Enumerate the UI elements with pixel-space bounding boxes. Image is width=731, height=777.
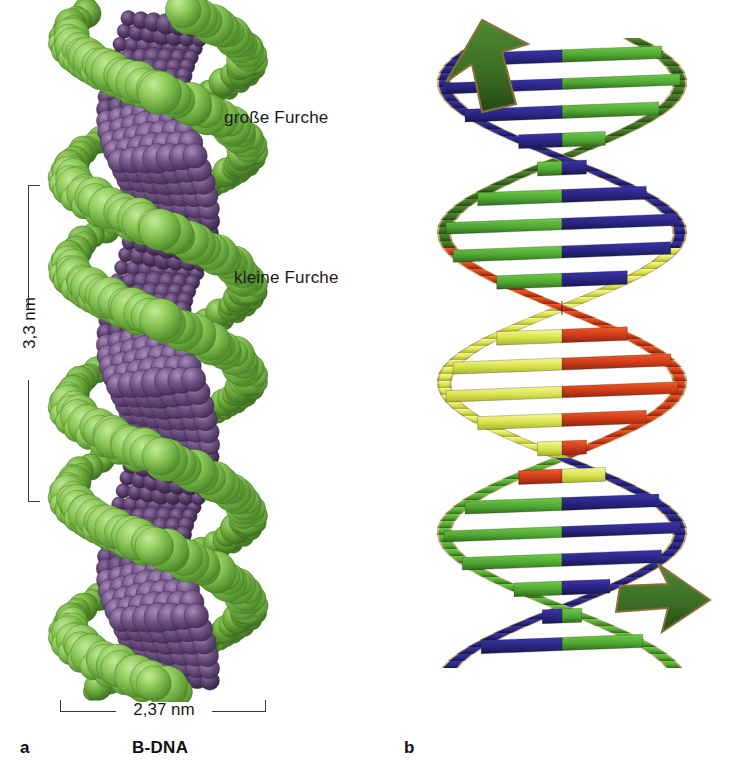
backbone-ribbon-segment — [605, 430, 635, 437]
bracket-tick-top — [28, 185, 40, 186]
base-pair-rung — [462, 554, 562, 570]
backbone-atom-sphere — [140, 298, 182, 340]
base-pair-rung — [562, 550, 662, 566]
atom-sphere-group — [48, 0, 268, 708]
bracket-tick-left — [60, 700, 61, 712]
backbone-ribbon-segment — [476, 486, 505, 493]
backbone-ribbon-segment — [586, 171, 618, 178]
backbone-ribbon-segment — [674, 227, 686, 234]
base-pair-rung — [562, 214, 678, 230]
base-pair-rung — [562, 579, 610, 595]
base-pair-rung — [562, 74, 680, 90]
backbone-ribbon-segment — [470, 339, 498, 346]
base-pair-rung — [497, 273, 562, 289]
ribbon-svg — [410, 8, 720, 708]
backbone-ribbon-segment — [588, 437, 620, 444]
backbone-ribbon-segment — [439, 374, 452, 381]
backbone-ribbon-segment — [471, 570, 498, 577]
base-pair-rung — [446, 218, 562, 234]
base-pair-rung — [519, 133, 562, 149]
backbone-ribbon-segment — [579, 318, 612, 325]
base-pair-rung — [562, 160, 587, 175]
base-pair-rung — [562, 522, 680, 538]
backbone-ribbon-segment — [504, 437, 536, 444]
backbone-ribbon-segment — [626, 339, 654, 346]
backbone-atom-sphere — [138, 71, 181, 114]
base-pair-rung — [538, 161, 563, 176]
backbone-atom-sphere — [135, 527, 174, 566]
panel-a-caption: B-DNA — [132, 738, 188, 758]
backbone-ribbon-segment — [581, 619, 613, 626]
base-pair-rung — [562, 327, 627, 343]
base-pair-rung — [562, 494, 659, 511]
backbone-ribbon-segment — [477, 185, 506, 192]
base-pair-rung — [519, 469, 562, 485]
base-pair-rung — [478, 414, 562, 430]
base-pair-rung — [562, 271, 627, 287]
backbone-ribbon-segment — [483, 577, 512, 584]
arrowhead-top — [446, 20, 528, 112]
base-pair-rung — [562, 131, 605, 147]
backbone-ribbon-segment — [439, 234, 451, 241]
base-pair-rung — [481, 637, 562, 653]
base-pair-rung — [465, 106, 562, 123]
backbone-ribbon-segment — [581, 290, 613, 297]
backbone-ribbon-segment — [511, 290, 543, 297]
backbone-ribbon-segment — [511, 619, 543, 626]
width-dimension-bracket: 2,37 nm — [60, 700, 266, 718]
base-pair-rung — [453, 246, 562, 262]
backbone-atom-sphere — [142, 438, 180, 476]
backbone-ribbon-segment — [672, 374, 685, 381]
width-dimension-label: 2,37 nm — [116, 700, 212, 720]
major-groove-label: große Furche — [224, 108, 328, 128]
backbone-ribbon-segment — [506, 171, 538, 178]
backbone-ribbon-segment — [527, 297, 560, 304]
height-dimension-label: 3,3 nm — [20, 283, 40, 363]
backbone-ribbon-segment — [598, 626, 629, 633]
base-pair-rung — [446, 386, 562, 402]
base-pair-rung — [444, 527, 562, 543]
bracket-tick-bottom — [28, 501, 40, 502]
backbone-ribbon-segment — [534, 150, 567, 157]
base-pair-rung — [562, 410, 646, 426]
panel-b-letter: b — [404, 738, 414, 758]
base-pair-rung — [562, 186, 646, 202]
base-pair-rung — [562, 608, 582, 623]
backbone-ribbon-segment — [562, 598, 595, 605]
backbone-ribbon-segment — [530, 598, 563, 605]
backbone-ribbon-segment — [439, 381, 450, 388]
panel-a-letter: a — [20, 738, 29, 758]
backbone-ribbon-segment — [628, 269, 655, 276]
base-atom-sphere — [183, 144, 208, 169]
base-pair-rung — [562, 46, 662, 62]
base-atom-sphere — [184, 604, 209, 629]
backbone-ribbon-segment — [624, 38, 652, 45]
backbone-ribbon-segment — [474, 122, 502, 129]
backbone-ribbon-segment — [673, 234, 685, 241]
backbone-ribbon-segment — [626, 570, 653, 577]
backbone-ribbon-segment — [612, 577, 641, 584]
backbone-ribbon-segment — [622, 122, 650, 129]
base-pair-rung — [478, 190, 562, 206]
space-filling-svg — [40, 0, 290, 710]
backbone-ribbon-segment — [495, 626, 526, 633]
backbone-strand-group — [437, 38, 688, 668]
base-pair-rung — [542, 609, 562, 624]
bracket-tick-right — [265, 700, 266, 712]
base-pair-rung — [453, 358, 562, 374]
base-pair-rung — [562, 354, 671, 370]
backbone-ribbon-segment — [469, 269, 496, 276]
backbone-ribbon-segment — [487, 129, 517, 136]
backbone-ribbon-segment — [561, 311, 594, 318]
base-pair-rung — [538, 441, 563, 456]
backbone-ribbon-segment — [489, 430, 519, 437]
base-pair-rung — [562, 440, 587, 455]
backbone-ribbon-segment — [620, 486, 649, 493]
dna-structure-figure: 3,3 nm 2,37 nm große Furche kleine Furch… — [0, 0, 731, 777]
backbone-ribbon-segment — [636, 115, 661, 122]
base-atom-sphere — [181, 367, 206, 392]
base-pair-rung — [562, 242, 671, 258]
backbone-ribbon-segment — [605, 479, 636, 486]
backbone-ribbon-segment — [602, 178, 633, 185]
base-pair-rung — [514, 581, 562, 597]
